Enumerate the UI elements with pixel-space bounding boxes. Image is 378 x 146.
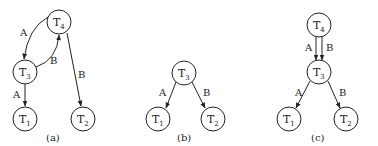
node-c-t2: T2 (334, 107, 358, 131)
node-c-t1: T1 (277, 107, 301, 131)
diagram-b: A B T3 T1 T2 (b) (146, 61, 225, 143)
edge-label: A (304, 42, 313, 53)
node-c-t4: T4 (307, 13, 331, 37)
caption-a: (a) (46, 132, 60, 143)
edge-label: A (158, 87, 167, 98)
node-a-t3: T3 (13, 60, 37, 84)
edge-label: B (203, 87, 210, 98)
diagram-canvas: A B A B T4 T3 T1 T2 (a) A B T3 T1 T2 (b)… (0, 0, 378, 146)
edge-label: A (12, 89, 21, 100)
edge-label: B (326, 42, 333, 53)
node-b-t2: T2 (201, 107, 225, 131)
node-b-t3: T3 (172, 61, 196, 85)
caption-c: (c) (311, 132, 325, 143)
edge-a-t4-t3-A (24, 17, 48, 59)
edge-b-t3-t1-A (166, 82, 176, 108)
diagram-a: A B A B T4 T3 T1 T2 (a) (12, 10, 95, 143)
node-b-t1: T1 (146, 107, 170, 131)
edge-label: A (19, 27, 28, 38)
caption-b: (b) (177, 132, 191, 143)
diagram-c: A B A B T4 T3 T1 T2 (c) (277, 13, 358, 143)
node-c-t3: T3 (307, 60, 331, 84)
edge-label: A (294, 87, 303, 98)
node-a-t2: T2 (71, 107, 95, 131)
node-a-t4: T4 (47, 10, 71, 34)
edge-label: B (78, 69, 85, 80)
edge-label: B (339, 87, 346, 98)
node-a-t1: T1 (13, 107, 37, 131)
edge-label: B (50, 55, 57, 66)
